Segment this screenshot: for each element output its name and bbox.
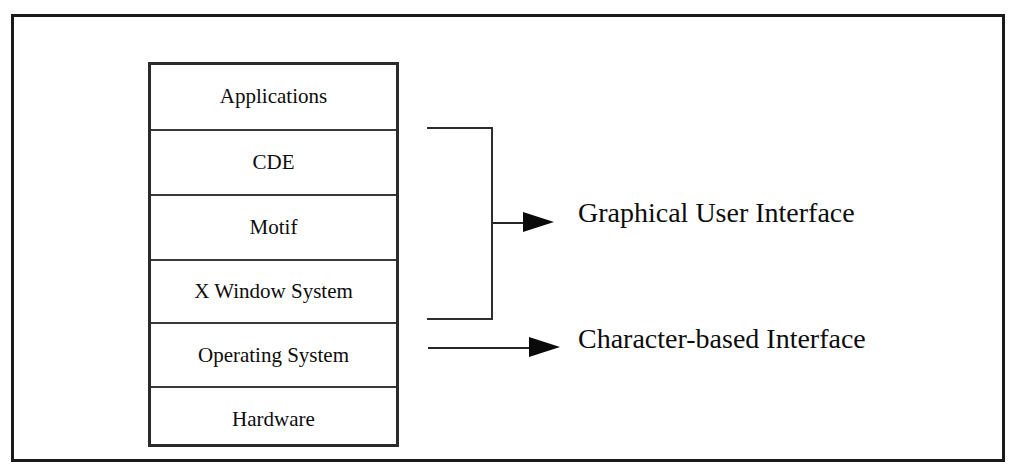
- cli-arrow-head-icon: [529, 337, 560, 357]
- layer-row-motif: Motif: [151, 194, 396, 259]
- gui-group-bracket: [427, 127, 493, 320]
- layer-row-hardware: Hardware: [151, 386, 396, 450]
- diagram-outer-frame: Applications CDE Motif X Window System O…: [11, 14, 1005, 462]
- layer-label-x-window-system: X Window System: [151, 261, 396, 302]
- layer-row-operating-system: Operating System: [151, 322, 396, 386]
- diagram-canvas: Applications CDE Motif X Window System O…: [0, 0, 1017, 470]
- layer-label-motif: Motif: [151, 196, 396, 238]
- software-layer-stack: Applications CDE Motif X Window System O…: [148, 62, 399, 447]
- annotation-label-character-based-interface: Character-based Interface: [578, 325, 866, 353]
- layer-row-x-window-system: X Window System: [151, 259, 396, 322]
- annotation-label-graphical-user-interface: Graphical User Interface: [578, 199, 855, 227]
- gui-arrow-head-icon: [523, 212, 554, 232]
- layer-label-operating-system: Operating System: [151, 324, 396, 366]
- gui-arrow-line: [493, 222, 524, 224]
- layer-label-applications: Applications: [151, 65, 396, 107]
- layer-row-cde: CDE: [151, 129, 396, 194]
- layer-row-applications: Applications: [151, 65, 396, 129]
- layer-label-hardware: Hardware: [151, 388, 396, 430]
- layer-label-cde: CDE: [151, 131, 396, 173]
- cli-arrow-line: [428, 347, 530, 349]
